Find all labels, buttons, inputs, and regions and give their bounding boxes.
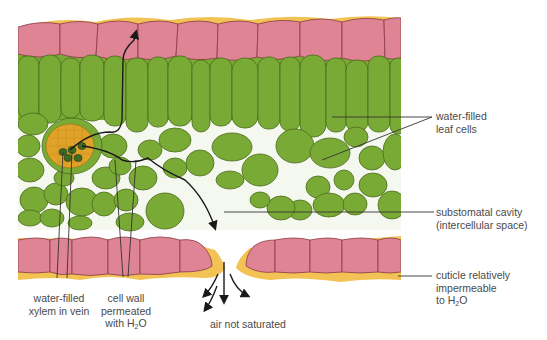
label-cell-wall-line1: cell wall <box>96 292 156 305</box>
label-cell-wall: cell wall permeated with H2O <box>96 292 156 330</box>
label-xylem: water-filled xylem in vein <box>24 292 94 317</box>
label-leaf-cells-line2: leaf cells <box>436 123 487 136</box>
label-cuticle-line3-suffix: O <box>459 294 467 306</box>
vascular-bundle <box>42 118 102 174</box>
label-air-text: air not saturated <box>210 318 286 330</box>
label-air-not-saturated: air not saturated <box>210 318 286 331</box>
label-substomatal-line1: substomatal cavity <box>436 206 528 219</box>
label-cell-wall-line2: permeated <box>96 305 156 318</box>
label-cuticle-line1: cuticle relatively <box>436 269 510 282</box>
label-cuticle-line2: impermeable <box>436 282 510 295</box>
arrow-air-left-far <box>205 286 217 310</box>
label-cuticle-line3-prefix: to H <box>436 294 455 306</box>
label-leaf-cells-line1: water-filled <box>436 110 487 123</box>
arrow-air-right <box>230 274 248 296</box>
label-substomatal-line2: (intercellular space) <box>436 219 528 232</box>
label-cell-wall-line3-suffix: O <box>138 317 146 329</box>
label-xylem-line2: xylem in vein <box>24 305 94 318</box>
label-cuticle: cuticle relatively impermeable to H2O <box>436 269 510 307</box>
lower-epidermis <box>18 236 401 282</box>
label-substomatal-cavity: substomatal cavity (intercellular space) <box>436 206 528 231</box>
upper-epidermis <box>18 18 401 61</box>
label-leaf-cells: water-filled leaf cells <box>436 110 487 135</box>
label-xylem-line1: water-filled <box>24 292 94 305</box>
label-cell-wall-line3-prefix: with H <box>105 317 134 329</box>
